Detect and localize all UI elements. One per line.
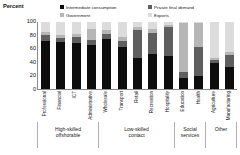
category-label-slot: Administrative <box>83 91 98 122</box>
category-label-slot: Professional <box>37 91 52 122</box>
stacked-bar[interactable] <box>148 22 157 89</box>
group-band: Social services <box>174 122 205 148</box>
group-band: Other <box>205 122 237 148</box>
x-axis-group-bands: High-skilled offshorableLow-skilled cont… <box>37 122 237 148</box>
category-label-slot: Health <box>191 91 206 122</box>
category-label-slot: Transport <box>114 91 129 122</box>
bar-segment <box>210 22 219 58</box>
category-label: Retail <box>135 91 140 103</box>
bar-segment <box>164 56 173 89</box>
bar-slot <box>145 22 160 89</box>
category-label: Professional <box>42 91 47 116</box>
group-band: High-skilled offshorable <box>37 122 98 148</box>
bar-segment <box>72 22 81 34</box>
bar-segment <box>87 29 96 40</box>
category-label: Administrative <box>89 91 94 120</box>
group-band-label: High-skilled offshorable <box>55 126 81 138</box>
stacked-bar-chart: Intermediate consumption Private final d… <box>0 0 240 155</box>
legend-item-government: Government <box>60 11 148 19</box>
category-label: Transport <box>119 91 124 111</box>
bar-segment <box>148 22 157 29</box>
bar-slot <box>84 22 99 89</box>
bar-segment <box>102 22 111 30</box>
stacked-bar[interactable] <box>87 22 96 89</box>
stacked-bar[interactable] <box>133 22 142 89</box>
stacked-bar[interactable] <box>194 22 203 89</box>
category-label-slot: Recreation <box>145 91 160 122</box>
bar-segment <box>133 58 142 89</box>
bar-slot <box>38 22 53 89</box>
bar-slot <box>99 22 114 89</box>
y-tick-label: 60 <box>2 46 36 52</box>
bar-segment <box>133 30 142 57</box>
chart-legend: Intermediate consumption Private final d… <box>60 3 238 19</box>
bar-segment <box>225 22 234 52</box>
y-tick-label: 0 <box>2 87 36 93</box>
y-axis: Percent 100 80 60 40 20 0 <box>0 0 36 155</box>
legend-label: Exports <box>154 13 169 18</box>
group-band-label: Other <box>215 126 228 132</box>
legend-swatch-icon <box>148 5 152 9</box>
bar-segment <box>41 22 50 32</box>
stacked-bar[interactable] <box>225 22 234 89</box>
bar-segment <box>194 76 203 89</box>
bar-segment <box>87 45 96 89</box>
bar-segment <box>118 47 127 89</box>
stacked-bar[interactable] <box>118 22 127 89</box>
bar-segment <box>87 22 96 29</box>
category-label: Education <box>181 91 186 111</box>
category-label-slot: Financial <box>52 91 67 122</box>
y-tick-label: 80 <box>2 33 36 39</box>
bar-segment <box>179 78 188 89</box>
bar-segment <box>164 27 173 56</box>
stacked-bar[interactable] <box>210 22 219 89</box>
bar-segment <box>56 42 65 89</box>
y-axis-title: Percent <box>3 3 24 9</box>
bar-segment <box>179 23 188 72</box>
category-label-slot: Education <box>176 91 191 122</box>
legend-item-intermediate-consumption: Intermediate consumption <box>60 3 148 11</box>
category-label: Agriculture <box>212 91 217 113</box>
category-label: Wholesale <box>104 91 109 112</box>
bar-segment <box>210 63 219 89</box>
bar-slot <box>130 22 145 89</box>
bar-slot <box>115 22 130 89</box>
legend-swatch-icon <box>148 13 152 17</box>
legend-swatch-icon <box>60 5 64 9</box>
bar-segment <box>102 39 111 89</box>
bar-slot <box>206 22 221 89</box>
bar-segment <box>225 67 234 89</box>
bar-segment <box>118 22 127 37</box>
legend-swatch-icon <box>60 13 64 17</box>
stacked-bar[interactable] <box>41 22 50 89</box>
bar-segment <box>148 33 157 54</box>
category-label-slot: Agriculture <box>206 91 221 122</box>
bar-segment <box>194 23 203 47</box>
category-label: Hospitality <box>166 91 171 112</box>
bar-segment <box>194 47 203 75</box>
y-tick-label: 100 <box>2 19 36 25</box>
stacked-bar[interactable] <box>164 22 173 89</box>
category-label: Health <box>196 91 201 104</box>
stacked-bar[interactable] <box>72 22 81 89</box>
group-band-label: Low-skilled contact <box>124 126 149 138</box>
legend-item-private-final-demand: Private final demand <box>148 3 238 11</box>
legend-item-exports: Exports <box>148 11 238 19</box>
bar-slot <box>161 22 176 89</box>
stacked-bar[interactable] <box>56 22 65 89</box>
group-band-label: Social services <box>181 126 199 138</box>
bar-segment <box>56 22 65 35</box>
category-label-slot: Retail <box>129 91 144 122</box>
category-label-slot: Hospitality <box>160 91 175 122</box>
category-label: Recreation <box>150 91 155 113</box>
stacked-bar[interactable] <box>179 22 188 89</box>
bar-slot <box>222 22 237 89</box>
category-label: Financial <box>58 91 63 109</box>
plot-area <box>37 22 237 90</box>
stacked-bar[interactable] <box>102 22 111 89</box>
y-tick-label: 40 <box>2 60 36 66</box>
bar-segment <box>225 55 234 67</box>
bar-segment <box>41 41 50 89</box>
bar-segment <box>148 54 157 89</box>
bar-slot <box>176 22 191 89</box>
